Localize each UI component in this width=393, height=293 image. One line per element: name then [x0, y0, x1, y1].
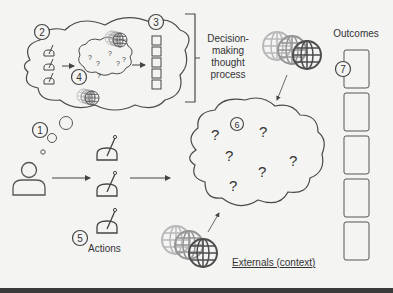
svg-text:6: 6 [234, 120, 239, 130]
globe-icon [77, 89, 99, 105]
svg-text:7: 7 [340, 64, 346, 75]
svg-text:4: 4 [76, 72, 82, 83]
option-stack [152, 36, 161, 89]
outcome-box [344, 222, 369, 260]
globe-icon [263, 32, 321, 69]
question-mark: ? [258, 163, 266, 180]
question-mark: ? [259, 123, 267, 140]
lever-icon [44, 45, 54, 56]
marker-6: 6 [231, 118, 244, 131]
marker-2: 2 [35, 25, 50, 40]
question-mark: ? [225, 147, 233, 164]
svg-text:thought: thought [211, 57, 245, 68]
question-mark: ? [122, 56, 126, 63]
actions-label: Actions [88, 243, 121, 254]
question-mark: ? [108, 50, 112, 57]
marker-5: 5 [73, 231, 88, 246]
outcome-box [344, 93, 369, 131]
svg-text:1: 1 [37, 125, 43, 136]
externals-label: Externals (context) [232, 257, 315, 268]
outcome-boxes [344, 50, 369, 260]
globe-icon [105, 31, 127, 47]
question-mark: ? [289, 152, 297, 169]
marker-7: 7 [336, 62, 351, 77]
svg-text:Decision-: Decision- [207, 33, 249, 44]
thought-bubble [48, 134, 57, 143]
question-mark: ? [116, 60, 120, 67]
question-mark: ? [97, 72, 101, 79]
marker-1: 1 [33, 123, 48, 138]
lever-icon [97, 208, 117, 233]
thought-bubble [60, 117, 73, 130]
decision-process-label: Decision- making thought process [207, 33, 249, 80]
arrow [208, 213, 219, 232]
diagram-canvas: ? ? ? ? ? ? Decision- making thought pro… [0, 0, 393, 293]
arrow [277, 75, 287, 100]
globe-icon [162, 226, 217, 267]
lever-icon [97, 135, 117, 160]
lever-icon [44, 73, 54, 84]
uncertainty-cloud [190, 98, 325, 206]
lever-icon [44, 59, 54, 70]
question-mark: ? [88, 54, 92, 61]
person-icon [13, 163, 45, 196]
marker-4: 4 [72, 70, 87, 85]
outcome-box [344, 179, 369, 217]
question-mark: ? [211, 126, 219, 143]
lever-icon [97, 171, 117, 196]
svg-text:5: 5 [77, 233, 83, 244]
bracket [185, 14, 200, 102]
svg-text:2: 2 [39, 27, 45, 38]
outcome-box [344, 136, 369, 174]
svg-text:process: process [210, 69, 245, 80]
thought-bubble [41, 150, 45, 154]
marker-3: 3 [149, 15, 164, 30]
bottom-border [0, 288, 393, 293]
svg-text:making: making [212, 45, 244, 56]
question-mark: ? [96, 60, 100, 67]
outcomes-label: Outcomes [333, 28, 379, 39]
svg-text:3: 3 [153, 17, 159, 28]
question-mark: ? [229, 177, 237, 194]
